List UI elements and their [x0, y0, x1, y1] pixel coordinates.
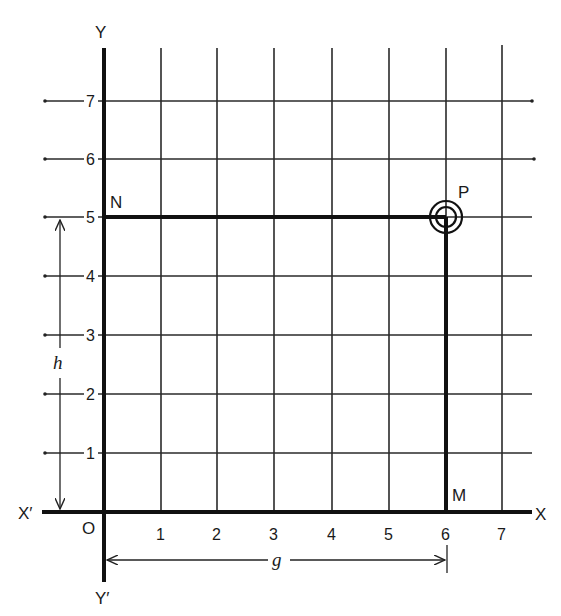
svg-text:3: 3: [269, 526, 278, 543]
svg-text:2: 2: [86, 386, 95, 403]
svg-text:7: 7: [497, 526, 506, 543]
coordinate-diagram: Y Y′ X′ X O N P M 7 6 5 4 3 2 1 1 2 3 4 …: [0, 0, 561, 616]
point-m-label: M: [452, 486, 466, 505]
svg-text:1: 1: [86, 445, 95, 462]
svg-text:6: 6: [441, 526, 450, 543]
point-n-label: N: [110, 193, 122, 212]
x-negative-axis-label: X′: [18, 504, 33, 523]
svg-text:2: 2: [212, 526, 221, 543]
dimension-g: g: [107, 545, 447, 573]
origin-label: O: [82, 519, 95, 538]
svg-text:4: 4: [86, 268, 95, 285]
dimension-h: h: [53, 220, 63, 509]
horizontal-grid-lines: [43, 99, 536, 455]
point-p-label: P: [458, 183, 469, 202]
svg-text:5: 5: [86, 209, 95, 226]
x-axis-label: X: [535, 505, 546, 524]
svg-text:4: 4: [327, 526, 336, 543]
svg-text:6: 6: [86, 151, 95, 168]
svg-text:7: 7: [86, 93, 95, 110]
x-tick-labels: 1 2 3 4 5 6 7: [156, 526, 506, 543]
dimension-h-label: h: [53, 352, 63, 373]
vertical-grid-lines: [161, 45, 502, 512]
svg-text:5: 5: [384, 526, 393, 543]
y-tick-labels: 7 6 5 4 3 2 1: [84, 92, 98, 462]
svg-text:3: 3: [86, 327, 95, 344]
y-negative-axis-label: Y′: [95, 589, 110, 608]
dimension-g-label: g: [272, 549, 282, 570]
svg-text:1: 1: [156, 526, 165, 543]
y-axis-label: Y: [95, 23, 106, 42]
